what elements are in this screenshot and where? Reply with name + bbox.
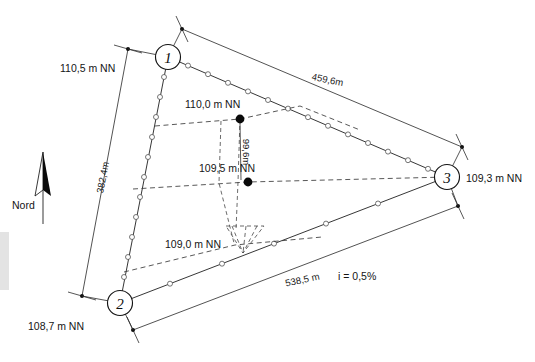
survey-plan-figure: 1 2 3 Nord 110,5 m NN 108,7 m NN 109,3 m… bbox=[0, 0, 535, 362]
flow-arrow-rib-right bbox=[243, 226, 257, 253]
corner-node-1[interactable]: 1 bbox=[156, 45, 181, 70]
station-marker bbox=[406, 158, 411, 163]
north-arrow-left-half bbox=[35, 152, 43, 196]
gradient-note: i = 0,5% bbox=[338, 270, 376, 282]
station-marker bbox=[272, 241, 277, 246]
station-marker bbox=[146, 155, 151, 160]
node-label-2: 2 bbox=[116, 296, 124, 312]
corner-3-elevation: 109,3 m NN bbox=[466, 172, 522, 184]
spot-height-109-5 bbox=[244, 178, 253, 187]
station-marker bbox=[426, 166, 431, 171]
side-2-3-length: 538,5 m bbox=[284, 271, 320, 289]
station-marker bbox=[150, 135, 155, 140]
station-marker bbox=[366, 141, 371, 146]
station-marker bbox=[386, 149, 391, 154]
contour-line-109-0 bbox=[124, 237, 322, 272]
station-marker bbox=[130, 235, 135, 240]
flow-arrow-outline bbox=[226, 226, 264, 253]
drainage-flow-arrow bbox=[226, 226, 264, 253]
station-marker bbox=[154, 115, 159, 120]
station-marker bbox=[266, 98, 271, 103]
contour-110-0-label: 110,0 m NN bbox=[185, 98, 240, 110]
station-marker bbox=[346, 132, 351, 137]
contour-line-109-5 bbox=[133, 177, 447, 189]
spot-offset-length: 99,6m bbox=[241, 139, 252, 166]
station-marker bbox=[206, 72, 211, 77]
station-marker bbox=[158, 95, 163, 100]
station-marker bbox=[376, 201, 381, 206]
station-marker bbox=[220, 261, 225, 266]
north-arrow: Nord bbox=[12, 152, 51, 224]
flow-arrow-rib-mid bbox=[243, 226, 246, 253]
station-marker bbox=[122, 275, 127, 280]
grading-edge-line bbox=[219, 121, 234, 243]
station-marker bbox=[186, 63, 191, 68]
corner-node-2[interactable]: 2 bbox=[108, 291, 133, 316]
parcel-boundary bbox=[120, 57, 447, 303]
corner-node-3[interactable]: 3 bbox=[435, 165, 460, 190]
corner-2-elevation: 108,7 m NN bbox=[28, 320, 84, 332]
side-1-2-length: 382,4m bbox=[94, 161, 111, 195]
station-markers bbox=[122, 63, 431, 286]
station-marker bbox=[306, 115, 311, 120]
corner-1-elevation: 110,5 m NN bbox=[60, 62, 115, 74]
grading-axis-line bbox=[236, 119, 240, 230]
station-marker bbox=[138, 195, 143, 200]
spot-height-110-0 bbox=[236, 115, 245, 124]
station-marker bbox=[324, 221, 329, 226]
dimension-line-1-3 bbox=[182, 29, 462, 147]
scan-edge-artifact bbox=[0, 232, 9, 290]
north-label: Nord bbox=[12, 199, 35, 211]
plan-canvas: 1 2 3 Nord 110,5 m NN 108,7 m NN 109,3 m… bbox=[0, 0, 535, 362]
node-label-3: 3 bbox=[442, 170, 451, 186]
station-marker bbox=[168, 281, 173, 286]
boundary-edge-1-2 bbox=[120, 57, 168, 303]
station-marker bbox=[126, 255, 131, 260]
north-arrow-right-half bbox=[43, 152, 51, 196]
station-marker bbox=[226, 80, 231, 85]
station-marker bbox=[246, 89, 251, 94]
node-label-1: 1 bbox=[164, 50, 172, 66]
contour-109-0-label: 109,0 m NN bbox=[165, 238, 221, 250]
flow-arrow-rib-left bbox=[232, 226, 243, 253]
station-marker bbox=[142, 175, 147, 180]
station-marker bbox=[162, 75, 167, 80]
station-marker bbox=[134, 215, 139, 220]
dimension-line-2-3 bbox=[133, 206, 458, 330]
station-marker bbox=[326, 123, 331, 128]
